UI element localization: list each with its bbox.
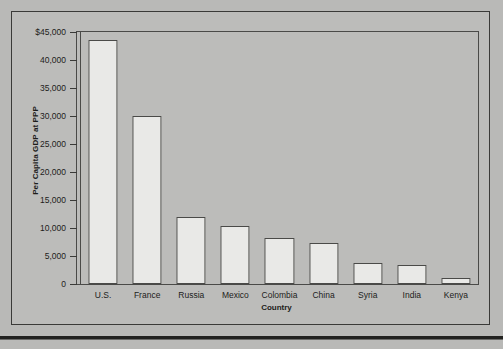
bar-slot: Syria bbox=[346, 32, 390, 284]
y-axis-tick-label: $45,000 bbox=[35, 27, 66, 37]
x-axis-category-label: Colombia bbox=[262, 290, 298, 300]
x-axis-category-label: U.S. bbox=[95, 290, 112, 300]
y-axis-tick-label: 40,000 bbox=[40, 55, 66, 65]
y-axis-tick: 5,000 bbox=[70, 256, 77, 257]
x-axis-title: Country bbox=[76, 303, 477, 312]
bar-chart: Per Capita GDP at PPP 05,00010,00015,000… bbox=[11, 11, 490, 325]
y-axis-tick: 40,000 bbox=[70, 60, 77, 61]
y-axis-tick-label: 35,000 bbox=[40, 83, 66, 93]
bars-group: U.S.FranceRussiaMexicoColombiaChinaSyria… bbox=[81, 32, 478, 284]
bar-slot: France bbox=[125, 32, 169, 284]
bar[interactable] bbox=[177, 217, 206, 284]
y-axis-title: Per Capita GDP at PPP bbox=[31, 81, 40, 221]
plot-area: 05,00010,00015,00020,00025,00030,00035,0… bbox=[76, 31, 479, 285]
x-axis-category-label: India bbox=[403, 290, 421, 300]
y-axis-tick-label: 25,000 bbox=[40, 139, 66, 149]
bar-slot: India bbox=[390, 32, 434, 284]
bar[interactable] bbox=[221, 226, 250, 284]
bar-slot: Kenya bbox=[434, 32, 478, 284]
x-axis-category-label: Kenya bbox=[444, 290, 468, 300]
y-axis-tick-label: 5,000 bbox=[45, 251, 66, 261]
bar-slot: Colombia bbox=[257, 32, 301, 284]
y-axis-tick-label: 30,000 bbox=[40, 111, 66, 121]
y-axis-tick-label: 10,000 bbox=[40, 223, 66, 233]
bar-slot: China bbox=[302, 32, 346, 284]
bar[interactable] bbox=[133, 116, 162, 284]
x-axis-category-label: Russia bbox=[178, 290, 204, 300]
bar-slot: Mexico bbox=[213, 32, 257, 284]
y-axis-tick: $45,000 bbox=[70, 32, 77, 33]
footer-rule-shadow bbox=[0, 339, 503, 340]
x-axis-category-label: Syria bbox=[358, 290, 377, 300]
x-axis-category-label: China bbox=[312, 290, 334, 300]
bar[interactable] bbox=[265, 238, 294, 284]
y-axis-tick-label: 15,000 bbox=[40, 195, 66, 205]
figure-root: Per Capita GDP at PPP 05,00010,00015,000… bbox=[0, 0, 503, 349]
y-axis-tick: 0 bbox=[70, 284, 77, 285]
bar-slot: U.S. bbox=[81, 32, 125, 284]
y-axis-tick-label: 0 bbox=[61, 279, 66, 289]
y-axis-tick: 20,000 bbox=[70, 172, 77, 173]
y-axis-tick: 15,000 bbox=[70, 200, 77, 201]
y-axis-tick: 10,000 bbox=[70, 228, 77, 229]
bar[interactable] bbox=[397, 265, 426, 284]
y-axis-tick: 35,000 bbox=[70, 88, 77, 89]
bar[interactable] bbox=[309, 243, 338, 284]
bar[interactable] bbox=[441, 278, 470, 284]
x-axis-category-label: France bbox=[134, 290, 160, 300]
y-axis-tick: 25,000 bbox=[70, 144, 77, 145]
y-axis-tick-label: 20,000 bbox=[40, 167, 66, 177]
bar-slot: Russia bbox=[169, 32, 213, 284]
x-axis-category-label: Mexico bbox=[222, 290, 249, 300]
bar[interactable] bbox=[353, 263, 382, 284]
bar[interactable] bbox=[88, 40, 117, 284]
y-axis-tick: 30,000 bbox=[70, 116, 77, 117]
